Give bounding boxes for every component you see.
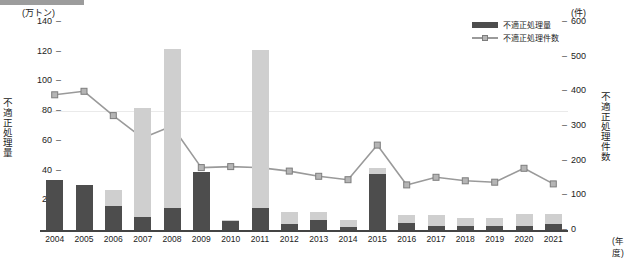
x-label-2016: 2016 (392, 234, 421, 244)
x-label-2010: 2010 (216, 234, 245, 244)
bar-segment (281, 212, 298, 224)
x-label-2020: 2020 (509, 234, 538, 244)
x-label-2019: 2019 (480, 234, 509, 244)
plot-area: 2004200520062007200820092010201120122013… (40, 22, 568, 237)
bar-2015 (369, 22, 386, 230)
bar-segment (310, 212, 327, 219)
legend-item-line: 不適正処理件数 (472, 32, 559, 43)
header-accent-bar (0, 0, 84, 5)
bar-segment (252, 208, 269, 230)
x-label-2006: 2006 (99, 234, 128, 244)
bar-2017 (428, 22, 445, 230)
bar-segment (134, 217, 151, 230)
bar-2018 (457, 22, 474, 230)
bar-2010 (222, 22, 239, 230)
x-label-2015: 2015 (363, 234, 392, 244)
x-axis-unit: (年度) (612, 234, 624, 258)
bar-2005 (76, 22, 93, 230)
bar-segment (105, 190, 122, 206)
right-tick-0: –0 (571, 224, 605, 234)
right-tick-200: –200 (571, 155, 605, 165)
x-label-2012: 2012 (275, 234, 304, 244)
x-label-2008: 2008 (157, 234, 186, 244)
legend: 不適正処理量 不適正処理件数 (472, 19, 559, 45)
legend-line-swatch-icon (472, 34, 498, 42)
bar-segment (222, 221, 239, 230)
right-tick-400: –400 (571, 85, 605, 95)
bar-2004 (46, 22, 63, 230)
plot-inner (40, 22, 568, 230)
x-label-2018: 2018 (451, 234, 480, 244)
bar-segment (105, 206, 122, 230)
bar-segment (369, 168, 386, 174)
bar-2021 (545, 22, 562, 230)
bar-segment (310, 220, 327, 230)
bar-2019 (486, 22, 503, 230)
bar-2011 (252, 22, 269, 230)
bar-segment (252, 50, 269, 207)
bar-segment (516, 214, 533, 226)
left-axis-title: 不適正処理量 (2, 98, 12, 158)
legend-line-label: 不適正処理件数 (503, 32, 559, 43)
right-tick-600: –600 (571, 16, 605, 26)
bar-segment (457, 218, 474, 225)
bar-2008 (164, 22, 181, 230)
x-label-2011: 2011 (245, 234, 274, 244)
bar-segment (76, 185, 93, 230)
x-label-2007: 2007 (128, 234, 157, 244)
bar-segment (398, 215, 415, 222)
bar-2006 (105, 22, 122, 230)
bar-segment (193, 172, 210, 230)
right-tick-500: –500 (571, 51, 605, 61)
bar-segment (46, 180, 63, 231)
x-label-2017: 2017 (421, 234, 450, 244)
line-path (55, 91, 554, 185)
bar-segment (164, 49, 181, 208)
bar-segment (134, 108, 151, 216)
bar-2020 (516, 22, 533, 230)
bar-segment (545, 214, 562, 224)
bar-segment (398, 223, 415, 230)
right-tick-300: –300 (571, 120, 605, 130)
bar-2009 (193, 22, 210, 230)
bar-segment (222, 220, 239, 221)
bar-2013 (310, 22, 327, 230)
bar-2014 (340, 22, 357, 230)
x-label-2013: 2013 (304, 234, 333, 244)
bar-segment (369, 174, 386, 230)
bar-2016 (398, 22, 415, 230)
legend-bar-swatch-icon (472, 22, 498, 28)
right-tick-100: –100 (571, 189, 605, 199)
bar-segment (428, 215, 445, 225)
x-label-2021: 2021 (539, 234, 568, 244)
x-label-2014: 2014 (333, 234, 362, 244)
legend-item-bar: 不適正処理量 (472, 19, 559, 30)
x-label-2004: 2004 (40, 234, 69, 244)
bar-segment (486, 218, 503, 225)
bar-segment (164, 208, 181, 230)
legend-bar-label: 不適正処理量 (503, 19, 551, 30)
bar-2012 (281, 22, 298, 230)
bar-segment (340, 220, 357, 227)
x-label-2009: 2009 (187, 234, 216, 244)
bar-2007 (134, 22, 151, 230)
x-axis-line (40, 230, 568, 232)
x-label-2005: 2005 (69, 234, 98, 244)
